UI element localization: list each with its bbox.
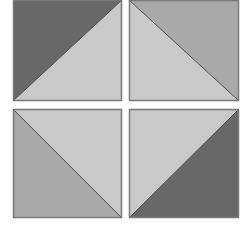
tile-top-right (129, 0, 239, 101)
tile-diagram (0, 0, 250, 242)
tile-bottom-left (13, 109, 122, 218)
tile-bottom-right (129, 109, 239, 218)
tile-top-left (13, 0, 122, 101)
